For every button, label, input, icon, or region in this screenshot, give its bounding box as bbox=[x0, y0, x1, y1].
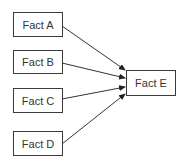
node-fact-d: Fact D bbox=[13, 131, 63, 156]
node-fact-b: Fact B bbox=[13, 50, 63, 74]
edge-b-e bbox=[62, 63, 125, 78]
node-label: Fact A bbox=[22, 19, 53, 31]
node-label: Fact C bbox=[22, 95, 54, 107]
edge-d-e bbox=[62, 94, 125, 144]
node-label: Fact B bbox=[22, 56, 54, 68]
node-label: Fact D bbox=[22, 138, 54, 150]
node-label: Fact E bbox=[135, 77, 167, 89]
node-fact-c: Fact C bbox=[13, 88, 63, 113]
edge-c-e bbox=[62, 87, 125, 99]
node-fact-e: Fact E bbox=[126, 70, 176, 96]
edge-a-e bbox=[62, 26, 125, 70]
node-fact-a: Fact A bbox=[13, 12, 63, 37]
